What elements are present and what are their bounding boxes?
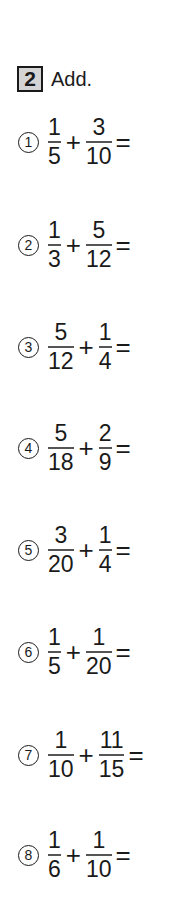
equals-sign: = xyxy=(116,639,131,665)
denominator: 5 xyxy=(48,144,61,169)
section-header: 2 Add. xyxy=(17,66,92,92)
denominator: 12 xyxy=(48,349,74,374)
fraction-a: 320 xyxy=(46,523,76,576)
problem-number: 3 xyxy=(18,337,39,358)
plus-sign: + xyxy=(66,639,81,665)
fraction-a: 518 xyxy=(46,421,76,474)
fraction-b: 14 xyxy=(97,523,114,576)
denominator: 10 xyxy=(86,857,112,882)
fraction-a: 13 xyxy=(46,218,63,271)
instruction-text: Add. xyxy=(51,66,92,92)
numerator: 1 xyxy=(48,625,61,650)
denominator: 10 xyxy=(86,144,112,169)
fraction-b: 29 xyxy=(97,421,114,474)
denominator: 20 xyxy=(86,654,112,679)
numerator: 3 xyxy=(92,115,105,140)
fraction-a: 15 xyxy=(46,625,63,678)
fraction-b: 1115 xyxy=(97,728,127,781)
problem-number: 4 xyxy=(18,438,39,459)
fraction-b: 110 xyxy=(84,828,114,881)
section-number-badge: 2 xyxy=(17,66,43,92)
equals-sign: = xyxy=(128,742,143,768)
denominator: 10 xyxy=(48,757,74,782)
plus-sign: + xyxy=(66,232,81,258)
plus-sign: + xyxy=(66,842,81,868)
fraction-b: 512 xyxy=(84,218,114,271)
fraction-a: 15 xyxy=(46,115,63,168)
fraction-b: 120 xyxy=(84,625,114,678)
problem-1: 115+310= xyxy=(18,112,131,172)
problem-3: 3512+14= xyxy=(18,317,131,377)
numerator: 1 xyxy=(92,828,105,853)
plus-sign: + xyxy=(79,742,94,768)
denominator: 6 xyxy=(48,857,61,882)
denominator: 12 xyxy=(86,247,112,272)
fraction-a: 512 xyxy=(46,320,76,373)
plus-sign: + xyxy=(66,129,81,155)
problem-number: 1 xyxy=(18,132,39,153)
numerator: 1 xyxy=(92,625,105,650)
numerator: 1 xyxy=(48,218,61,243)
equals-sign: = xyxy=(116,537,131,563)
denominator: 20 xyxy=(48,552,74,577)
fraction-a: 110 xyxy=(46,728,76,781)
numerator: 5 xyxy=(54,421,67,446)
equals-sign: = xyxy=(116,334,131,360)
problem-7: 7110+1115= xyxy=(18,725,144,785)
denominator: 4 xyxy=(99,552,112,577)
fraction-a: 16 xyxy=(46,828,63,881)
denominator: 4 xyxy=(99,349,112,374)
problem-number: 5 xyxy=(18,540,39,561)
problem-number: 8 xyxy=(18,845,39,866)
numerator: 3 xyxy=(54,523,67,548)
problem-5: 5320+14= xyxy=(18,520,131,580)
numerator: 1 xyxy=(48,115,61,140)
numerator: 1 xyxy=(99,320,112,345)
numerator: 1 xyxy=(54,728,67,753)
problem-number: 2 xyxy=(18,235,39,256)
problem-number: 7 xyxy=(18,745,39,766)
equals-sign: = xyxy=(116,842,131,868)
denominator: 18 xyxy=(48,450,74,475)
problem-4: 4518+29= xyxy=(18,418,131,478)
numerator: 11 xyxy=(100,728,124,753)
numerator: 5 xyxy=(92,218,105,243)
denominator: 15 xyxy=(99,757,125,782)
plus-sign: + xyxy=(79,334,94,360)
problem-8: 816+110= xyxy=(18,825,131,885)
numerator: 1 xyxy=(48,828,61,853)
numerator: 5 xyxy=(54,320,67,345)
fraction-b: 14 xyxy=(97,320,114,373)
equals-sign: = xyxy=(116,129,131,155)
problem-number: 6 xyxy=(18,642,39,663)
problem-6: 615+120= xyxy=(18,622,131,682)
fraction-b: 310 xyxy=(84,115,114,168)
denominator: 9 xyxy=(99,450,112,475)
denominator: 5 xyxy=(48,654,61,679)
plus-sign: + xyxy=(79,435,94,461)
numerator: 2 xyxy=(99,421,112,446)
equals-sign: = xyxy=(116,232,131,258)
problem-2: 213+512= xyxy=(18,215,131,275)
equals-sign: = xyxy=(116,435,131,461)
numerator: 1 xyxy=(99,523,112,548)
plus-sign: + xyxy=(79,537,94,563)
denominator: 3 xyxy=(48,247,61,272)
